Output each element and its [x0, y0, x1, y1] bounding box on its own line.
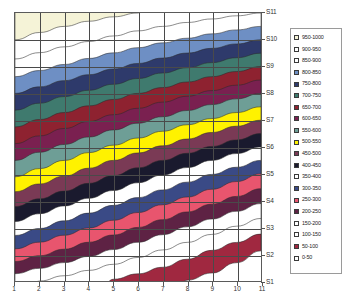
legend-swatch-icon [294, 82, 299, 87]
legend-item[interactable]: 800-850 [294, 67, 339, 79]
legend: 950-1000900-950850-900800-850750-800700-… [290, 28, 342, 274]
gridline-vertical [189, 13, 190, 281]
legend-swatch-icon [294, 256, 299, 261]
legend-item-label: 500-550 [302, 136, 321, 148]
legend-item[interactable]: 850-900 [294, 55, 339, 67]
legend-item[interactable]: 300-350 [294, 183, 339, 195]
y-axis-tick [261, 39, 265, 40]
gridline-horizontal [15, 175, 261, 176]
legend-item[interactable]: 200-250 [294, 206, 339, 218]
y-axis-tick [261, 66, 265, 67]
y-axis-label: S4 [266, 198, 274, 205]
legend-item[interactable]: 450-500 [294, 148, 339, 160]
legend-item-label: 350-400 [302, 171, 321, 183]
y-axis-tick [261, 174, 265, 175]
legend-item-label: 700-750 [302, 90, 321, 102]
legend-swatch-icon [294, 232, 299, 237]
x-axis-label: 10 [230, 286, 244, 293]
gridline-vertical [238, 13, 239, 281]
legend-item[interactable]: 650-700 [294, 102, 339, 114]
legend-swatch-icon [294, 128, 299, 133]
legend-item-label: 50-100 [302, 241, 318, 253]
y-axis-label: S11 [266, 9, 276, 16]
y-axis-tick [261, 147, 265, 148]
gridline-horizontal [15, 229, 261, 230]
legend-item-label: 300-350 [302, 183, 321, 195]
y-axis-tick [261, 12, 265, 13]
legend-item[interactable]: 550-600 [294, 125, 339, 137]
y-axis-label: S1 [266, 279, 274, 286]
legend-swatch-icon [294, 209, 299, 214]
gridline-vertical [139, 13, 140, 281]
legend-item[interactable]: 400-450 [294, 160, 339, 172]
legend-item-label: 150-200 [302, 218, 321, 230]
legend-item[interactable]: 350-400 [294, 171, 339, 183]
gridline-horizontal [15, 121, 261, 122]
legend-swatch-icon [294, 116, 299, 121]
legend-item[interactable]: 250-300 [294, 194, 339, 206]
plot-wrapper: S11S10S9S8S7S6S5S4S3S2S1 1234567891011 [0, 0, 282, 303]
legend-item[interactable]: 750-800 [294, 78, 339, 90]
legend-item[interactable]: 700-750 [294, 90, 339, 102]
legend-item-label: 600-650 [302, 113, 321, 125]
legend-swatch-icon [294, 70, 299, 75]
y-axis-label: S2 [266, 252, 274, 259]
gridline-vertical [114, 13, 115, 281]
x-axis-label: 8 [181, 286, 195, 293]
gridline-vertical [89, 13, 90, 281]
y-axis-label: S8 [266, 90, 274, 97]
x-axis-label: 2 [32, 286, 46, 293]
legend-item[interactable]: 950-1000 [294, 32, 339, 44]
x-axis-label: 3 [57, 286, 71, 293]
legend-swatch-icon [294, 174, 299, 179]
legend-swatch-icon [294, 221, 299, 226]
legend-swatch-icon [294, 140, 299, 145]
y-axis-label: S9 [266, 63, 274, 70]
legend-swatch-icon [294, 151, 299, 156]
legend-swatch-icon [294, 35, 299, 40]
legend-swatch-icon [294, 163, 299, 168]
legend-item[interactable]: 500-550 [294, 136, 339, 148]
x-axis-label: 11 [255, 286, 269, 293]
legend-item[interactable]: 50-100 [294, 241, 339, 253]
legend-item[interactable]: 0-50 [294, 252, 339, 264]
gridline-vertical [40, 13, 41, 281]
legend-item[interactable]: 100-150 [294, 229, 339, 241]
legend-item-label: 850-900 [302, 55, 321, 67]
contour-bands [15, 13, 261, 281]
legend-item-label: 400-450 [302, 160, 321, 172]
gridline-horizontal [15, 148, 261, 149]
y-axis-label: S5 [266, 171, 274, 178]
legend-item[interactable]: 900-950 [294, 44, 339, 56]
gridline-vertical [164, 13, 165, 281]
legend-swatch-icon [294, 186, 299, 191]
y-axis-label: S10 [266, 36, 277, 43]
chart-screenshot: S11S10S9S8S7S6S5S4S3S2S1 1234567891011 9… [0, 0, 345, 303]
legend-item-label: 650-700 [302, 102, 321, 114]
legend-swatch-icon [294, 244, 299, 249]
legend-item-label: 900-950 [302, 44, 321, 56]
gridline-vertical [213, 13, 214, 281]
x-axis-label: 6 [131, 286, 145, 293]
gridline-horizontal [15, 94, 261, 95]
y-axis-tick [261, 120, 265, 121]
x-axis-label: 1 [7, 286, 21, 293]
y-axis-label: S6 [266, 144, 274, 151]
y-axis-tick [261, 255, 265, 256]
legend-swatch-icon [294, 58, 299, 63]
legend-item-label: 750-800 [302, 78, 321, 90]
y-axis-tick [261, 93, 265, 94]
legend-item-label: 100-150 [302, 229, 321, 241]
legend-item[interactable]: 150-200 [294, 218, 339, 230]
y-axis-label: S3 [266, 225, 274, 232]
gridline-horizontal [15, 67, 261, 68]
legend-item[interactable]: 600-650 [294, 113, 339, 125]
legend-item-label: 950-1000 [302, 32, 324, 44]
gridline-vertical [65, 13, 66, 281]
legend-swatch-icon [294, 105, 299, 110]
gridline-horizontal [15, 256, 261, 257]
y-axis-tick [261, 201, 265, 202]
plot-area [14, 12, 262, 282]
y-axis-tick [261, 228, 265, 229]
gridline-horizontal [15, 40, 261, 41]
